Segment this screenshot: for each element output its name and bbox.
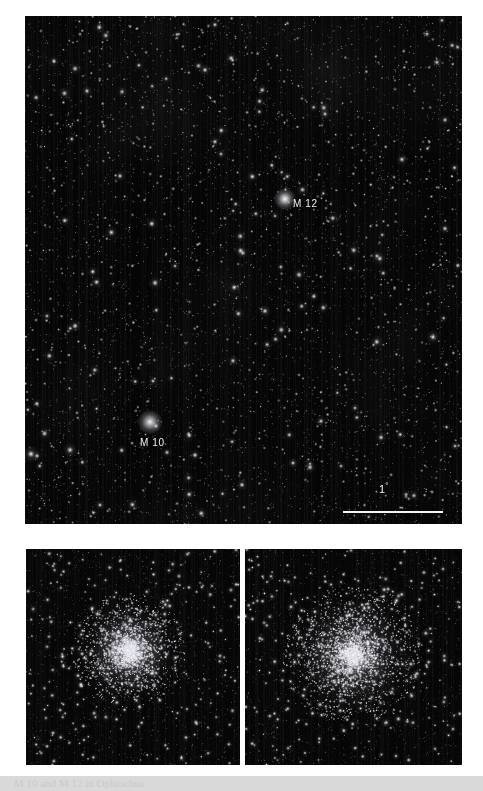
degree-symbol: ° (385, 481, 388, 490)
detail-starfield-m10 (26, 549, 240, 765)
cluster-glow-m10 (138, 410, 162, 434)
caption-band: M 10 and M 12 in Ophiuchus (0, 776, 483, 791)
detail-starfield-m12 (245, 549, 462, 765)
scale-bar: 1° (343, 479, 445, 513)
label-m10: M 10 (140, 437, 165, 448)
scale-bar-label: 1° (379, 481, 388, 495)
astronomy-figure: M 12 M 10 1° M 10 and M 12 in Ophiuchus (0, 0, 483, 791)
detail-image-m10 (26, 549, 240, 765)
detail-image-m12 (245, 549, 462, 765)
wide-field-image: M 12 M 10 1° (25, 16, 462, 524)
wide-field-starfield (25, 16, 462, 524)
figure-caption: M 10 and M 12 in Ophiuchus (14, 777, 144, 790)
label-m12: M 12 (293, 198, 318, 209)
scale-bar-line (343, 511, 443, 513)
